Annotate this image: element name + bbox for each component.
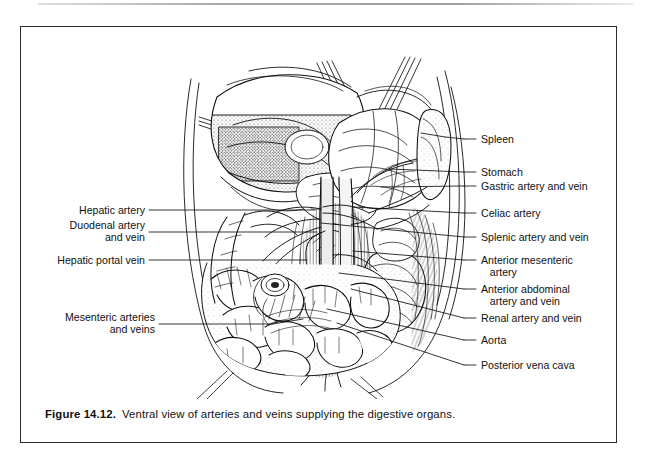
label-mesenteric-arteries-and-veins: Mesenteric arteries and veins [21, 311, 155, 336]
label-stomach: Stomach [481, 166, 523, 178]
figure-caption-text: Ventral view of arteries and veins suppl… [122, 408, 455, 420]
label-anterior-abdominal-artery-and-vein: Anterior abdominal artery and vein [481, 283, 570, 308]
scan-artifact-line [38, 3, 633, 5]
small-intestine [197, 255, 411, 385]
label-renal-artery-and-vein: Renal artery and vein [481, 312, 582, 324]
label-duodenal-artery-and-vein: Duodenal artery and vein [21, 219, 145, 244]
label-anterior-mesenteric-artery: Anterior mesenteric artery [481, 254, 573, 279]
label-celiac-artery: Celiac artery [481, 207, 540, 219]
label-aorta: Aorta [481, 334, 506, 346]
label-gastric-artery-and-vein: Gastric artery and vein [481, 180, 588, 192]
label-hepatic-portal-vein: Hepatic portal vein [21, 254, 145, 266]
label-hepatic-artery: Hepatic artery [21, 204, 145, 216]
label-splenic-artery-and-vein: Splenic artery and vein [481, 231, 589, 243]
figure-caption: Figure 14.12.Ventral view of arteries an… [45, 408, 605, 420]
figure-caption-label: Figure 14.12. [45, 408, 116, 420]
label-spleen: Spleen [481, 133, 514, 145]
figure-frame: Spleen Stomach Gastric artery and vein C… [20, 26, 617, 443]
label-posterior-vena-cava: Posterior vena cava [481, 359, 575, 371]
spleen [415, 107, 455, 203]
